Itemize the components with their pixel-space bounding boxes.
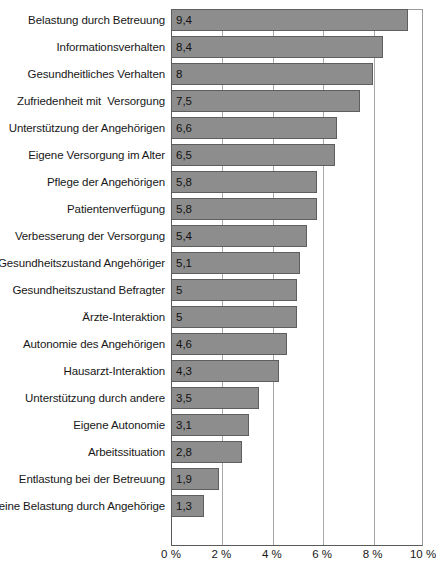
bar: [171, 306, 297, 328]
bar-row: Pflege der Angehörigen5,8: [0, 171, 432, 198]
bar-row: Verbesserung der Versorgung5,4: [0, 225, 432, 252]
category-label: Eigene Versorgung im Alter: [28, 144, 165, 166]
bar-value-label: 3,1: [176, 414, 192, 436]
bar-row: Unterstützung der Angehörigen6,6: [0, 117, 432, 144]
bar-value-label: 7,5: [176, 90, 192, 112]
category-label: Belastung durch Betreuung: [28, 9, 165, 31]
x-tick-label: 2 %: [211, 548, 231, 560]
category-label: Entlastung bei der Betreuung: [19, 468, 165, 490]
category-label: Gesundheitszustand Angehöriger: [0, 252, 165, 274]
bar-value-label: 3,5: [176, 387, 192, 409]
category-label: Verbesserung der Versorgung: [15, 225, 165, 247]
x-tick-label: 8 %: [363, 548, 383, 560]
bar-value-label: 4,3: [176, 360, 192, 382]
bar-value-label: 6,6: [176, 117, 192, 139]
bar-value-label: 6,5: [176, 144, 192, 166]
bar-value-label: 1,9: [176, 468, 192, 490]
bar-row: Eigene Versorgung im Alter6,5: [0, 144, 432, 171]
bar-row: Patientenverfügung5,8: [0, 198, 432, 225]
category-label: Unterstützung der Angehörigen: [9, 117, 165, 139]
bar-row: Gesundheitliches Verhalten8: [0, 63, 432, 90]
bar-row: Entlastung bei der Betreuung1,9: [0, 468, 432, 495]
x-tick-label: 0 %: [161, 548, 181, 560]
category-label: Eigene Autonomie: [73, 414, 165, 436]
category-label: Keine Belastung durch Angehörige: [0, 495, 165, 517]
category-label: Zufriedenheit mit Versorgung: [17, 90, 165, 112]
bar-value-label: 8,4: [176, 36, 192, 58]
category-label: Arbeitssituation: [88, 441, 165, 463]
bar: [171, 63, 373, 85]
bar: [171, 36, 383, 58]
bar-row: Eigene Autonomie3,1: [0, 414, 432, 441]
bar-row: Autonomie des Angehörigen4,6: [0, 333, 432, 360]
bar-value-label: 1,3: [176, 495, 192, 517]
bar: [171, 171, 317, 193]
x-tick-label: 4 %: [262, 548, 282, 560]
bar-row: Keine Belastung durch Angehörige1,3: [0, 495, 432, 522]
x-tick-label: 6 %: [312, 548, 332, 560]
bar-row: Unterstützung durch andere3,5: [0, 387, 432, 414]
category-label: Patientenverfügung: [67, 198, 165, 220]
bar: [171, 117, 337, 139]
bar-rows: Belastung durch Betreuung9,4Informations…: [0, 9, 432, 522]
bar: [171, 144, 335, 166]
bar-value-label: 5,4: [176, 225, 192, 247]
bar-row: Gesundheitszustand Angehöriger5,1: [0, 252, 432, 279]
category-label: Ärzte-Interaktion: [82, 306, 165, 328]
x-axis-tick-labels: 0 %2 %4 %6 %8 %10 %: [0, 548, 432, 568]
bar-row: Arbeitssituation2,8: [0, 441, 432, 468]
bar-value-label: 5,8: [176, 198, 192, 220]
bar-value-label: 9,4: [176, 9, 192, 31]
bar-row: Belastung durch Betreuung9,4: [0, 9, 432, 36]
bar: [171, 198, 317, 220]
bar-value-label: 5: [176, 279, 182, 301]
category-label: Pflege der Angehörigen: [47, 171, 165, 193]
bar: [171, 90, 360, 112]
bar-row: Zufriedenheit mit Versorgung7,5: [0, 90, 432, 117]
category-label: Autonomie des Angehörigen: [23, 333, 165, 355]
category-label: Unterstützung durch andere: [25, 387, 165, 409]
bar-row: Hausarzt-Interaktion4,3: [0, 360, 432, 387]
category-label: Gesundheitszustand Befragter: [12, 279, 165, 301]
bar-value-label: 4,6: [176, 333, 192, 355]
bar: [171, 9, 408, 31]
bar-value-label: 8: [176, 63, 182, 85]
bar-row: Ärzte-Interaktion5: [0, 306, 432, 333]
bar-row: Gesundheitszustand Befragter5: [0, 279, 432, 306]
bar: [171, 279, 297, 301]
bar-value-label: 5,1: [176, 252, 192, 274]
category-label: Gesundheitliches Verhalten: [28, 63, 165, 85]
bar-row: Informationsverhalten8,4: [0, 36, 432, 63]
bar-value-label: 5: [176, 306, 182, 328]
bar-value-label: 5,8: [176, 171, 192, 193]
x-tick-label: 10 %: [410, 548, 436, 560]
bar-value-label: 2,8: [176, 441, 192, 463]
category-label: Informationsverhalten: [57, 36, 166, 58]
category-label: Hausarzt-Interaktion: [63, 360, 165, 382]
